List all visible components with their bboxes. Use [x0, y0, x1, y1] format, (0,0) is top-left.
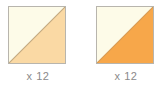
pieces-diagram: x 12 x 12 [0, 0, 163, 91]
half-square-triangle-icon [9, 7, 65, 63]
fabric-swatch-orange [96, 6, 154, 64]
unit-half-square-triangle-light: x 12 [2, 0, 74, 91]
quantity-label-orange: x 12 [90, 70, 162, 82]
half-square-triangle-icon [97, 7, 153, 63]
quantity-label-light: x 12 [2, 70, 74, 82]
fabric-swatch-light [8, 6, 66, 64]
unit-half-square-triangle-orange: x 12 [90, 0, 162, 91]
